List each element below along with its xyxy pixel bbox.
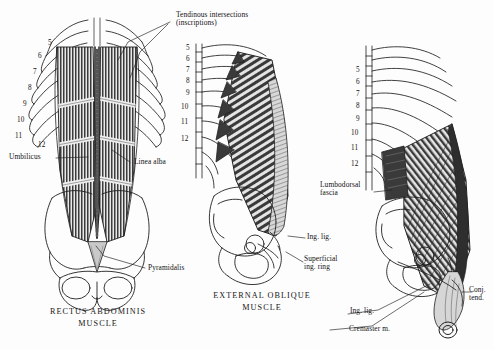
rib-number-10-eo: 10: [181, 104, 188, 112]
rib-number-6-io: 6: [356, 79, 360, 87]
rib-number-11-eo: 11: [181, 119, 188, 127]
vertebral-column-io: [366, 46, 372, 190]
rib-number-11-rectus: 11: [15, 133, 22, 141]
caption-external-oblique: EXTERNAL OBLIQUE MUSCLE: [194, 290, 330, 314]
rib-number-6-rectus: 6: [38, 53, 42, 61]
rib-number-9-io: 9: [356, 116, 360, 124]
rib-number-9-eo: 9: [186, 90, 190, 98]
rib-number-5-io: 5: [356, 67, 360, 75]
rib-number-7-eo: 7: [186, 67, 190, 75]
vertebral-column: [196, 44, 202, 178]
rib-number-7-rectus: 7: [33, 69, 37, 77]
rib-number-8-io: 8: [356, 103, 360, 111]
rib-number-10-io: 10: [351, 130, 358, 138]
rib-number-6-eo: 6: [186, 56, 190, 64]
external-oblique-figure: [196, 44, 305, 285]
leader-lines-eo: [286, 236, 305, 262]
rib-number-10-rectus: 10: [17, 117, 24, 125]
lumbodorsal-fascia-shape: [382, 146, 408, 200]
rib-number-11-io: 11: [351, 145, 358, 153]
rib-number-8-rectus: 8: [28, 85, 32, 93]
label-linea-alba: Linea alba: [134, 158, 166, 166]
linea-alba-band: [95, 47, 99, 238]
rib-number-12-io: 12: [351, 161, 358, 169]
rib-number-12-rectus: 12: [38, 142, 45, 150]
rib-number-5-eo: 5: [186, 45, 190, 53]
label-pyramidalis: Pyramidalis: [148, 264, 184, 272]
label-umbilicus: Umbilicus: [9, 153, 41, 161]
label-inguinal-ligament-io: Ing. lig.: [350, 307, 374, 315]
rib-number-5-rectus: 5: [48, 40, 52, 48]
rib-number-12-eo: 12: [181, 136, 188, 144]
label-lumbodorsal-fascia: Lumbodorsal fascia: [320, 181, 361, 197]
label-tendinous-intersections: Tendinous intersections (inscriptions): [176, 11, 248, 27]
label-cremaster-muscle: Cremaster m.: [349, 325, 390, 333]
label-conjoined-tendon: Conj. tend.: [469, 286, 486, 302]
rib-number-7-io: 7: [356, 91, 360, 99]
label-inguinal-ligament-eo: Ing. lig.: [307, 233, 331, 241]
pyramidalis-muscle: [88, 242, 107, 272]
label-superficial-inguinal-ring: Superficial ing. ring: [304, 255, 338, 271]
rib-number-9-rectus: 9: [23, 101, 27, 109]
rib-number-8-eo: 8: [186, 78, 190, 86]
caption-rectus-abdominis: RECTUS ABDOMINIS MUSCLE: [16, 306, 180, 330]
